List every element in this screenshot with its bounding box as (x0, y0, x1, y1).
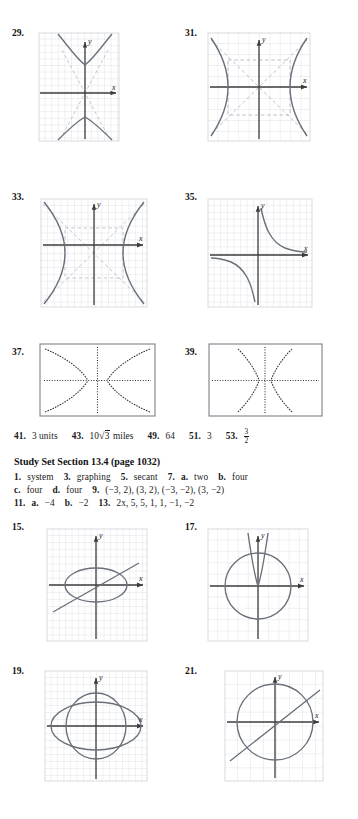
y-axis-label-29: y (87, 37, 92, 46)
answer-part-label-7a: a. (181, 472, 188, 482)
answer-number-13: 13. (99, 498, 111, 508)
answer-value-13: 2x, 5, 5, 1, 1, −1, −2 (116, 498, 194, 508)
problem-label-19: 19. (12, 660, 24, 678)
y-axis-label-35: y (260, 201, 265, 210)
problem-number: 15. (12, 522, 24, 532)
answer-key-page: 29. (0, 0, 358, 819)
answer-part-label-7c: c. (14, 485, 21, 495)
problem-number: 21. (185, 666, 197, 676)
study-set-line-1: 1.system3.graphing5.secant7.a.twob.four (14, 472, 248, 482)
graph-31: y x (207, 32, 311, 142)
study-set-line-3: 11.a.−4b.−213.2x, 5, 5, 1, 1, −1, −2 (14, 498, 194, 508)
problem-number: 31. (185, 28, 197, 38)
y-axis-label-17: y (260, 531, 265, 540)
answer-number-7: 7. (168, 472, 175, 482)
answer-value-43-coefficient: 10 (90, 431, 100, 441)
answer-number-9: 9. (92, 485, 99, 495)
radical-43: √3 (99, 430, 110, 441)
grid-29 (39, 33, 119, 141)
y-axis-label-21: y (277, 672, 282, 681)
answer-number-43: 43. (72, 431, 84, 441)
graph-37 (39, 343, 156, 417)
answer-number-51: 51. (189, 431, 201, 441)
answer-value-7b: four (232, 472, 248, 482)
answer-value-11a: −4 (45, 498, 55, 508)
problem-number: 19. (12, 666, 24, 676)
answer-part-label-11b: b. (65, 498, 73, 508)
answer-value-51: 3 (207, 431, 212, 441)
problem-number: 33. (12, 192, 24, 202)
fraction-denominator: 2 (244, 437, 250, 445)
answer-value-7c: four (27, 485, 43, 495)
answer-number-49: 49. (148, 431, 160, 441)
answer-unit-43: miles (113, 431, 134, 441)
graph-35: y x (207, 198, 313, 308)
answer-number-5: 5. (121, 472, 128, 482)
x-axis-label-19: x (138, 715, 143, 724)
radicand-43: 3 (105, 430, 111, 441)
study-set-heading: Study Set Section 13.4 (page 1032) (14, 456, 160, 467)
x-axis-label-15: x (138, 574, 143, 583)
answer-value-3: graphing (77, 472, 111, 482)
problem-label-31: 31. (185, 22, 197, 40)
answer-part-label-7d: d. (53, 485, 61, 495)
problem-label-29: 29. (12, 22, 24, 40)
answer-value-1: system (27, 472, 53, 482)
problem-number: 37. (12, 347, 24, 357)
x-axis-label-33: x (138, 234, 143, 243)
grid-35 (208, 199, 312, 307)
graph-17: y x (207, 528, 309, 642)
graph-29: y x (38, 32, 120, 142)
answer-value-49: 64 (165, 431, 175, 441)
x-axis-label-31: x (302, 76, 307, 85)
answer-value-5: secant (134, 472, 158, 482)
answer-number-3: 3. (64, 472, 71, 482)
x-axis-label-21: x (314, 711, 319, 720)
graph-21: y x (224, 670, 324, 782)
problem-number: 35. (185, 192, 197, 202)
problem-number: 39. (185, 347, 197, 357)
graph-15: y x (46, 528, 148, 642)
problem-label-17: 17. (185, 516, 197, 534)
answer-value-7d: four (66, 485, 82, 495)
problem-label-39: 39. (185, 341, 197, 359)
y-axis-label-33: y (96, 200, 101, 209)
answer-part-label-7b: b. (218, 472, 226, 482)
problem-label-37: 37. (12, 341, 24, 359)
y-axis-label-15: y (98, 531, 103, 540)
answer-part-label-11a: a. (31, 498, 38, 508)
x-axis-label-29: x (111, 83, 116, 92)
problem-number: 29. (12, 28, 24, 38)
answer-number-53: 53. (226, 431, 238, 441)
answer-value-9: (−3, 2), (3, 2), (−3, −2), (3, −2) (105, 485, 224, 495)
graph-19: y x (44, 670, 148, 782)
y-axis-label-19: y (98, 673, 103, 682)
answer-value-11b: −2 (78, 498, 88, 508)
answer-number-1: 1. (14, 472, 21, 482)
x-axis-label-17: x (299, 575, 304, 584)
problem-label-15: 15. (12, 516, 24, 534)
problem-label-35: 35. (185, 186, 197, 204)
answer-value-41: 3 units (32, 431, 58, 441)
graph-39 (208, 343, 323, 417)
problem-label-33: 33. (12, 186, 24, 204)
graph-33: y x (40, 198, 148, 308)
answer-value-7a: two (194, 472, 208, 482)
x-axis-label-35: x (303, 244, 308, 253)
fraction-53: 32 (244, 428, 250, 444)
answer-number-41: 41. (14, 431, 26, 441)
y-axis-label-31: y (261, 35, 266, 44)
study-set-line-2: c.fourd.four9.(−3, 2), (3, 2), (−3, −2),… (14, 485, 224, 495)
answer-row-41-53: 41.3 units43.10√3 miles49.6451.353.32 (14, 428, 249, 444)
problem-label-21: 21. (185, 660, 197, 678)
problem-number: 17. (185, 522, 197, 532)
answer-number-11: 11. (14, 498, 25, 508)
